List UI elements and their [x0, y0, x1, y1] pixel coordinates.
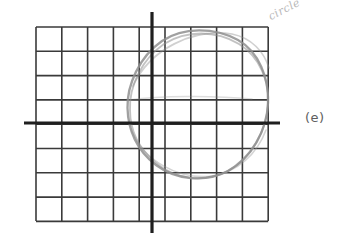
figure-container: circle (e) [0, 0, 355, 241]
handdrawn-circle-on-grid-figure [0, 0, 355, 241]
panel-label: (e) [305, 110, 325, 125]
handdrawn-circle-curve [127, 30, 269, 178]
